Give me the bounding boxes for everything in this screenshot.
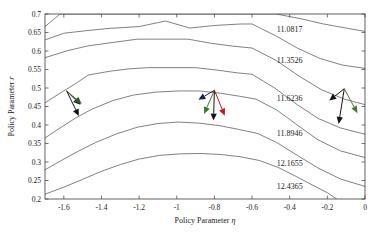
x-tick-label: -0.2 [321,203,333,212]
contour-line-12.1655 [45,91,365,158]
y-tick-label: 0.7 [32,10,42,19]
y-tick-label: 0.6 [32,47,42,56]
contour-lines-group [45,14,365,199]
x-tick-label: -1.2 [133,203,145,212]
middle-arrow-cluster-black-arrow-shaft [214,90,215,113]
plot-frame [45,14,365,199]
contour-label-12.4365: 12.4365 [277,182,303,191]
y-axis-title: Policy Parameter r [7,76,16,137]
y-tick-label: 0.5 [32,84,42,93]
x-tick-label: -1 [174,203,180,212]
axes-frame [45,14,365,199]
contour-plot-svg: -1.6-1.4-1.2-1-0.8-0.6-0.4-0.20 0.20.250… [0,0,377,233]
y-tick-label: 0.55 [28,65,41,74]
right-arrow-cluster-green-arrow-shaft [344,89,354,107]
right-arrow-cluster-black-arrow-shaft [340,89,345,117]
left-arrow-cluster-green-arrow-shaft [67,91,77,99]
contour-line-11.3526 [45,21,365,68]
y-axis-ticks: 0.20.250.30.350.40.450.50.550.60.650.7 [28,10,365,204]
contour-figure: -1.6-1.4-1.2-1-0.8-0.6-0.4-0.20 0.20.250… [0,0,377,233]
left-arrow-cluster-black-arrow-shaft [67,91,76,110]
contour-level-labels: 11.081711.352611.623611.894612.165512.43… [277,25,303,191]
x-tick-label: -0.6 [246,203,258,212]
y-tick-label: 0.35 [28,139,41,148]
y-tick-label: 0.3 [32,158,42,167]
arrow-annotations-group [67,89,358,124]
x-tick-label: -0.4 [284,203,296,212]
y-tick-label: 0.25 [28,176,41,185]
contour-label-11.0817: 11.0817 [277,25,303,34]
right-arrow-cluster-black-arrow-head [329,94,336,101]
y-tick-label: 0.65 [28,28,41,37]
middle-arrow-cluster-black-arrow-head [211,113,217,120]
contour-label-11.6236: 11.6236 [277,94,303,103]
x-tick-label: 0 [363,203,367,212]
x-tick-label: -1.4 [96,203,108,212]
right-arrow-cluster-black-arrow-head [337,116,343,123]
y-tick-label: 0.45 [28,102,41,111]
y-tick-label: 0.4 [32,121,42,130]
contour-label-12.1655: 12.1655 [277,159,303,168]
contour-line-12.4365 [45,122,365,186]
y-tick-label: 0.2 [32,195,42,204]
x-tick-label: -0.8 [208,203,220,212]
x-tick-label: -1.6 [58,203,70,212]
contour-line-11.6236 [45,39,365,104]
contour-line-11.0817 [45,14,365,31]
contour-label-11.3526: 11.3526 [277,56,303,65]
contour-label-11.8946: 11.8946 [277,129,303,138]
x-axis-title: Policy Parameter η [175,216,236,225]
contour-line-11.8946 [45,68,365,135]
middle-arrow-cluster-blue-arrow-head [198,94,206,100]
